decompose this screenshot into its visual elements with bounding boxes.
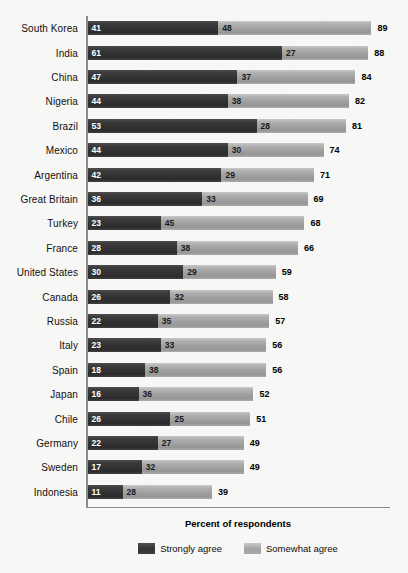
bar-segment-strongly-agree: 17 <box>88 460 142 474</box>
stacked-bar: 4438 <box>88 94 350 108</box>
bar-segment-somewhat-agree: 36 <box>139 387 254 401</box>
bar-total-value: 68 <box>310 218 320 228</box>
category-label: Japan <box>50 389 78 400</box>
bar-segment-somewhat-agree: 28 <box>257 119 346 133</box>
bar-value-somewhat-agree: 27 <box>162 439 171 448</box>
bar-value-strongly-agree: 53 <box>92 122 101 131</box>
category-label: India <box>56 47 78 58</box>
stacked-bar: 4229 <box>88 168 314 182</box>
bar-segment-somewhat-agree: 28 <box>123 485 212 499</box>
chart-row: Spain183856 <box>0 358 408 382</box>
stacked-bar: 2227 <box>88 436 244 450</box>
plot-area: South Korea414889India612788China473784N… <box>0 0 408 516</box>
stacked-bar: 3633 <box>88 192 308 206</box>
bar-segment-somewhat-agree: 35 <box>158 314 270 328</box>
bar-segment-strongly-agree: 23 <box>88 216 161 230</box>
bar-segment-somewhat-agree: 25 <box>170 412 250 426</box>
bar-total-value: 66 <box>304 243 314 253</box>
bar-segment-strongly-agree: 53 <box>88 119 257 133</box>
bar-segment-strongly-agree: 44 <box>88 143 228 157</box>
stacked-bar: 5328 <box>88 119 346 133</box>
stacked-bar: 2235 <box>88 314 270 328</box>
stacked-bar: 1636 <box>88 387 254 401</box>
category-label: Sweden <box>41 462 78 473</box>
bar-total-value: 82 <box>355 96 365 106</box>
chart-row: Brazil532881 <box>0 114 408 138</box>
bar-total-value: 39 <box>218 487 228 497</box>
bar-segment-somewhat-agree: 38 <box>145 363 266 377</box>
bar-total-value: 59 <box>282 267 292 277</box>
bar-segment-somewhat-agree: 38 <box>228 94 349 108</box>
category-label: China <box>51 71 78 82</box>
bar-value-somewhat-agree: 32 <box>146 463 155 472</box>
bar-value-somewhat-agree: 37 <box>241 73 250 82</box>
chart-row: Sweden173249 <box>0 455 408 479</box>
chart-row: Italy233356 <box>0 333 408 357</box>
bar-value-strongly-agree: 61 <box>92 48 101 57</box>
bar-value-somewhat-agree: 48 <box>222 24 231 33</box>
bar-segment-strongly-agree: 42 <box>88 168 222 182</box>
bar-value-somewhat-agree: 36 <box>143 390 152 399</box>
stacked-bar: 2333 <box>88 338 267 352</box>
category-label: France <box>46 242 78 253</box>
chart-row: Indonesia112839 <box>0 480 408 504</box>
category-label: Canada <box>42 291 78 302</box>
category-label: Nigeria <box>46 96 78 107</box>
bar-segment-strongly-agree: 61 <box>88 46 283 60</box>
bar-value-somewhat-agree: 33 <box>206 195 215 204</box>
bar-total-value: 58 <box>279 292 289 302</box>
stacked-bar: 4430 <box>88 143 324 157</box>
category-label: United States <box>17 267 78 278</box>
chart-container: South Korea414889India612788China473784N… <box>0 0 408 573</box>
bar-segment-strongly-agree: 44 <box>88 94 228 108</box>
bar-segment-somewhat-agree: 33 <box>202 192 307 206</box>
stacked-bar: 1128 <box>88 485 212 499</box>
bar-value-strongly-agree: 28 <box>92 244 101 253</box>
bar-segment-strongly-agree: 47 <box>88 70 238 84</box>
category-label: Turkey <box>47 218 78 229</box>
bar-segment-somewhat-agree: 33 <box>161 338 266 352</box>
chart-row: France283866 <box>0 236 408 260</box>
bar-segment-somewhat-agree: 37 <box>237 70 355 84</box>
bar-segment-strongly-agree: 30 <box>88 265 184 279</box>
bar-segment-strongly-agree: 22 <box>88 436 158 450</box>
bar-value-somewhat-agree: 38 <box>232 97 241 106</box>
bar-total-value: 84 <box>361 72 371 82</box>
stacked-bar: 1838 <box>88 363 267 377</box>
category-label: Italy <box>59 340 78 351</box>
legend-item[interactable]: Strongly agree <box>138 543 222 554</box>
bar-total-value: 51 <box>256 414 266 424</box>
bar-value-strongly-agree: 18 <box>92 366 101 375</box>
stacked-bar: 4737 <box>88 70 356 84</box>
chart-row: Canada263258 <box>0 284 408 308</box>
bar-total-value: 57 <box>275 316 285 326</box>
bar-value-somewhat-agree: 32 <box>174 292 183 301</box>
bar-value-strongly-agree: 47 <box>92 73 101 82</box>
bar-segment-somewhat-agree: 38 <box>177 241 298 255</box>
bar-value-somewhat-agree: 28 <box>127 488 136 497</box>
category-label: Great Britain <box>21 193 78 204</box>
bar-segment-strongly-agree: 28 <box>88 241 177 255</box>
bar-segment-somewhat-agree: 45 <box>161 216 305 230</box>
category-label: Indonesia <box>34 486 78 497</box>
bar-value-somewhat-agree: 38 <box>181 244 190 253</box>
bar-segment-strongly-agree: 41 <box>88 21 219 35</box>
chart-row: South Korea414889 <box>0 16 408 40</box>
bar-total-value: 56 <box>272 365 282 375</box>
bar-segment-somewhat-agree: 32 <box>170 290 272 304</box>
bar-value-strongly-agree: 42 <box>92 170 101 179</box>
chart-row: Great Britain363369 <box>0 187 408 211</box>
legend-item[interactable]: Somewhat agree <box>244 543 338 554</box>
bar-value-strongly-agree: 16 <box>92 390 101 399</box>
bar-total-value: 71 <box>320 170 330 180</box>
chart-row: Argentina422971 <box>0 162 408 186</box>
bar-value-somewhat-agree: 35 <box>162 317 171 326</box>
chart-row: Japan163652 <box>0 382 408 406</box>
stacked-bar: 3029 <box>88 265 276 279</box>
bar-value-strongly-agree: 41 <box>92 24 101 33</box>
category-label: Argentina <box>34 169 78 180</box>
category-label: Spain <box>52 364 78 375</box>
chart-row: Mexico443074 <box>0 138 408 162</box>
bar-value-somewhat-agree: 28 <box>261 122 270 131</box>
bar-value-strongly-agree: 23 <box>92 219 101 228</box>
